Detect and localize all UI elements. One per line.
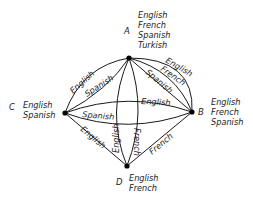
language: English [211, 97, 241, 107]
language: Spanish [23, 110, 55, 120]
language: English [23, 100, 53, 110]
edge-label: English [79, 124, 108, 151]
language: French [211, 107, 239, 117]
node-a-name: A [123, 26, 130, 36]
language: Spanish [211, 117, 243, 127]
language: English [129, 173, 159, 183]
node-d-languages: English French [129, 173, 159, 193]
edge-label: English [111, 123, 121, 153]
language: Turkish [138, 40, 167, 50]
node-a [126, 55, 131, 60]
language: Spanish [138, 30, 170, 40]
node-c-languages: English Spanish [23, 100, 55, 120]
edge-label: French [132, 128, 142, 156]
language: French [129, 183, 157, 193]
node-d [124, 163, 129, 168]
node-b-languages: English French Spanish [211, 97, 243, 127]
node-d-name: D [116, 177, 123, 187]
node-c [62, 110, 67, 115]
edge-label: English [141, 96, 171, 108]
language: French [138, 20, 166, 30]
language-graph: English Spanish English French Spanish E… [0, 0, 253, 204]
node-a-languages: English French Spanish Turkish [138, 10, 170, 50]
node-b-name: B [198, 107, 204, 117]
edge-labels: English Spanish English French Spanish E… [68, 55, 195, 156]
language: English [138, 10, 168, 20]
node-c-name: C [9, 102, 15, 112]
edge-label: French [147, 131, 175, 157]
node-b [189, 109, 194, 114]
